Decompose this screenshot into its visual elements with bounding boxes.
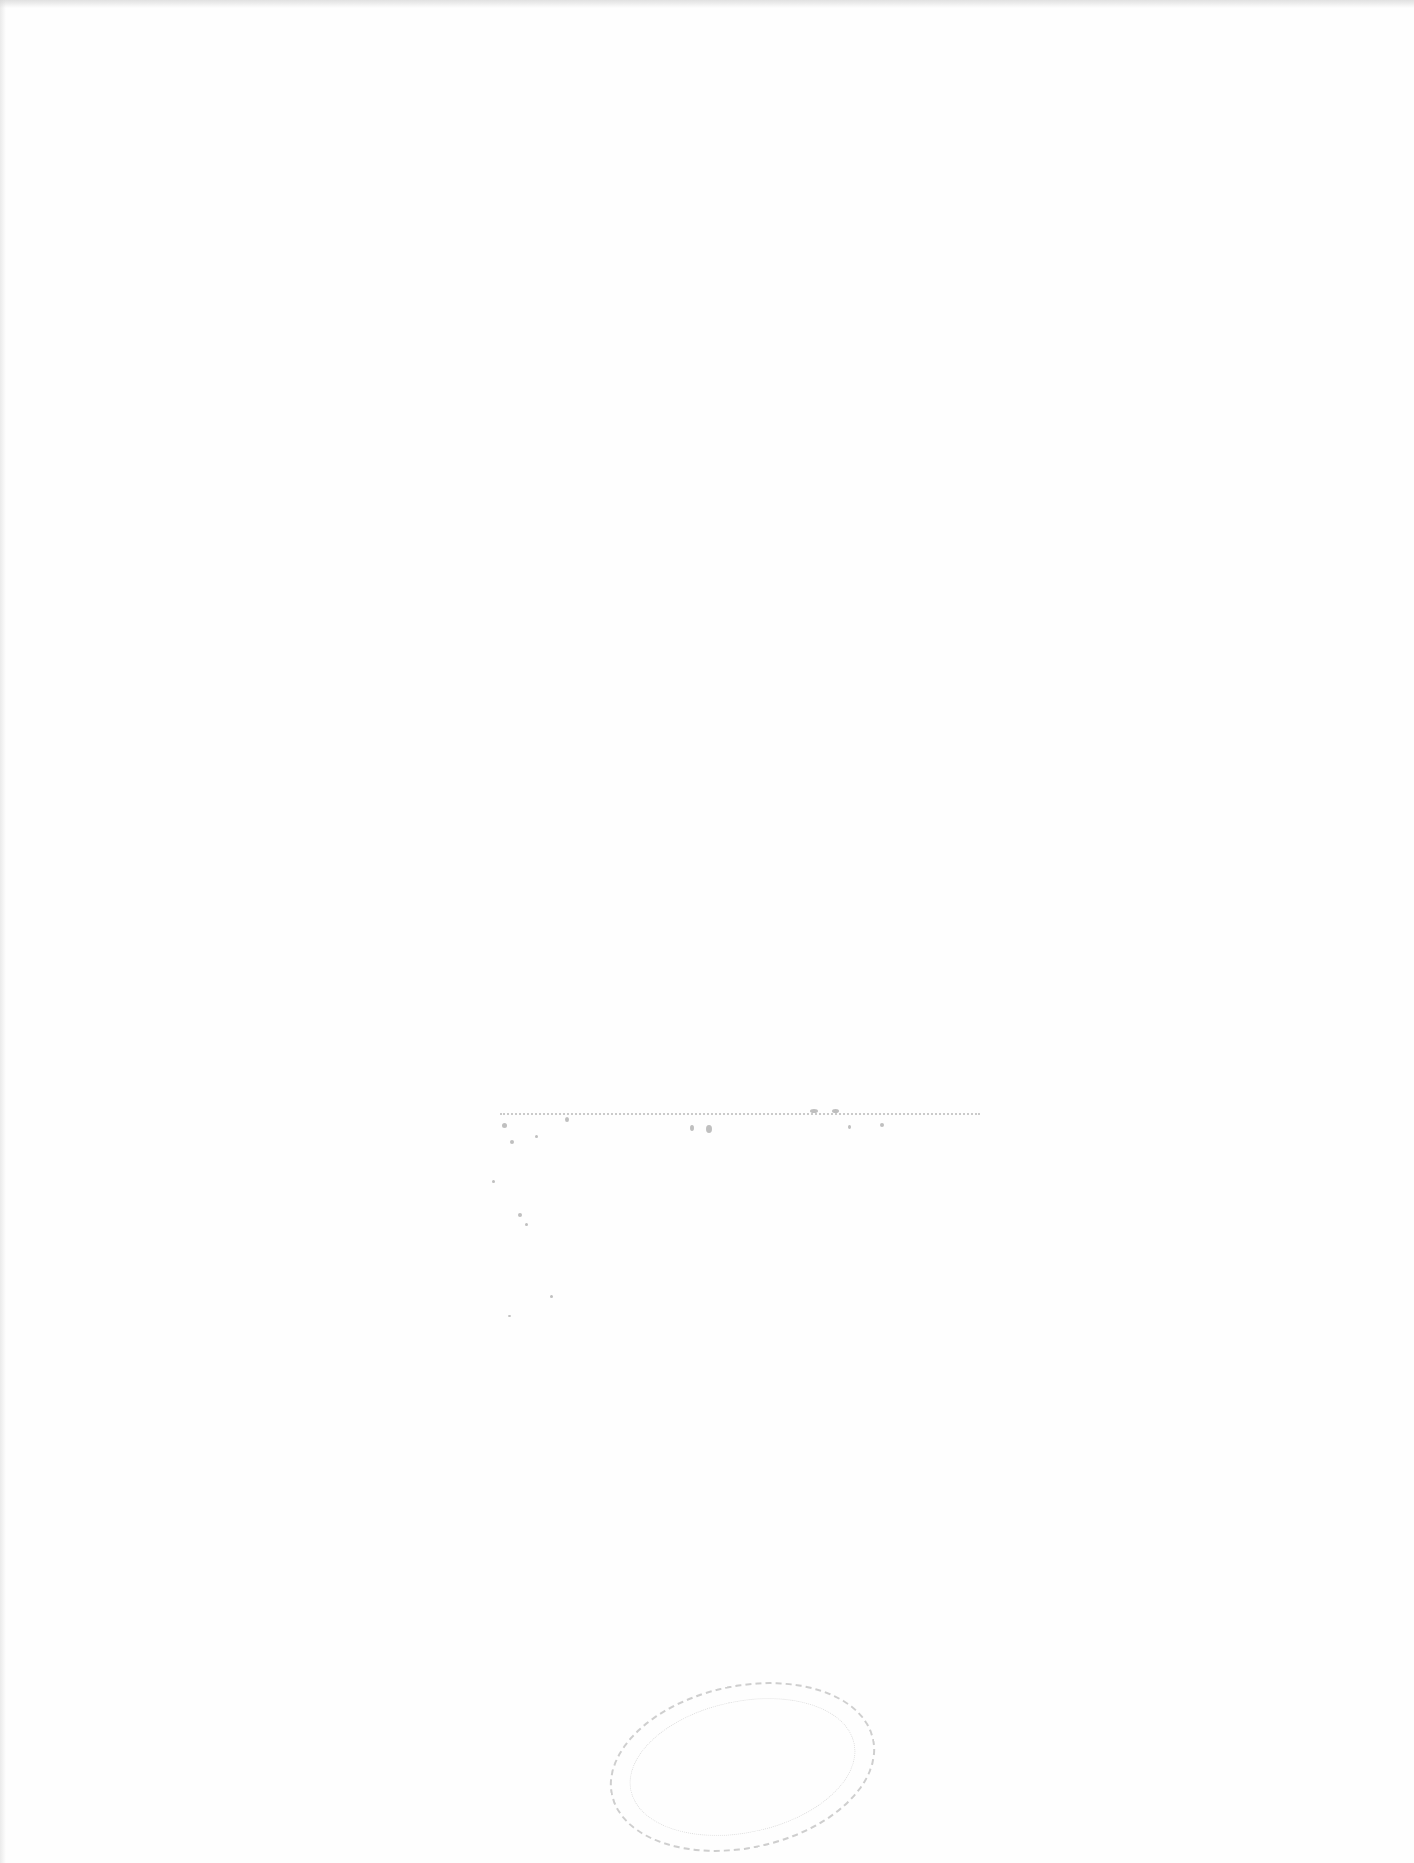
speck [525,1223,528,1226]
speck [535,1135,538,1138]
speck [508,1315,511,1317]
speck [706,1125,712,1133]
scan-left-edge-shadow [0,0,6,1863]
speck [810,1109,818,1113]
speck [492,1180,495,1183]
bleed-through-line [500,1113,980,1116]
speck [550,1295,553,1298]
speck [565,1117,569,1122]
speck [848,1125,851,1129]
bleed-through-marks [480,1095,1000,1335]
speck [510,1140,514,1144]
speck [690,1125,694,1131]
speck [880,1123,884,1127]
oval-stamp [594,1659,891,1863]
oval-stamp-inner-ring [617,1679,868,1856]
speck [518,1213,522,1217]
speck [502,1123,507,1128]
speck [832,1109,839,1113]
scanned-page [0,0,1414,1863]
scan-top-edge-shadow [0,0,1414,8]
